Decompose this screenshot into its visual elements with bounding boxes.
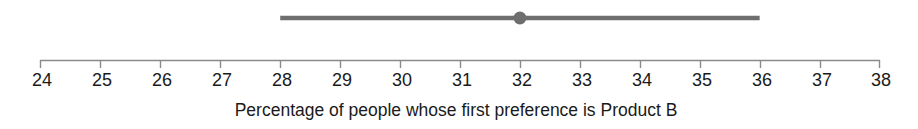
x-tick-label: 25 (92, 70, 112, 90)
chart-svg: 24 25 26 27 28 29 30 31 32 33 34 35 36 3… (0, 0, 918, 129)
x-tick-label: 29 (332, 70, 352, 90)
x-tick-label: 38 (871, 70, 891, 90)
x-tick-label: 27 (212, 70, 232, 90)
x-tick-label: 26 (152, 70, 172, 90)
x-tick-label: 31 (452, 70, 472, 90)
x-tick-label: 33 (572, 70, 592, 90)
error-bar-chart: 24 25 26 27 28 29 30 31 32 33 34 35 36 3… (0, 0, 918, 129)
x-tick-label: 28 (272, 70, 292, 90)
x-tick-label: 36 (752, 70, 772, 90)
x-tick-label: 37 (812, 70, 832, 90)
x-axis-tick-labels: 24 25 26 27 28 29 30 31 32 33 34 35 36 3… (32, 70, 891, 90)
x-axis-title: Percentage of people whose first prefere… (235, 100, 678, 120)
x-tick-label: 34 (632, 70, 652, 90)
x-tick-label: 32 (512, 70, 532, 90)
x-tick-label: 24 (32, 70, 52, 90)
x-tick-label: 35 (692, 70, 712, 90)
point-estimate-marker (513, 12, 526, 25)
x-tick-label: 30 (392, 70, 412, 90)
plot-area: 24 25 26 27 28 29 30 31 32 33 34 35 36 3… (0, 0, 918, 129)
